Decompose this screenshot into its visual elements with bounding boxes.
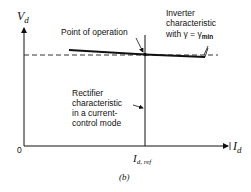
svg-text:with γ = γmin: with γ = γmin (165, 29, 213, 40)
point-of-operation-leader (136, 38, 143, 52)
point-of-operation-label: Point of operation (61, 27, 128, 37)
diagram-canvas: Vd Id 0 Id, ref Point of operation Inver… (0, 0, 251, 192)
svg-text:control mode: control mode (72, 118, 121, 128)
svg-text:Inverter: Inverter (166, 8, 195, 18)
origin-label: 0 (17, 145, 22, 155)
inverter-characteristic (69, 50, 205, 57)
figure-caption: (b) (119, 172, 130, 182)
svg-text:in a current-: in a current- (72, 108, 118, 118)
inverter-characteristic-label: Inverter characteristic with γ = γmin (165, 8, 217, 40)
rectifier-characteristic-label: Rectifier characteristic in a current- c… (72, 88, 123, 128)
operating-point (143, 53, 147, 57)
svg-text:Rectifier: Rectifier (72, 88, 103, 98)
x-tick-label-id-ref: Id, ref (132, 152, 152, 166)
rectifier-leader (133, 105, 143, 108)
x-axis-label: Id (232, 139, 242, 155)
y-axis-label: Vd (17, 9, 29, 25)
svg-text:characteristic: characteristic (166, 18, 217, 28)
svg-text:characteristic: characteristic (72, 98, 123, 108)
